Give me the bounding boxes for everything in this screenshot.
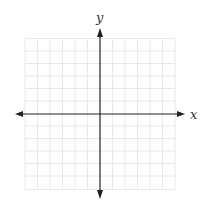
- arrow-up-icon: [97, 28, 103, 37]
- coordinate-plane: x y: [0, 0, 211, 203]
- arrow-down-icon: [97, 190, 103, 199]
- y-axis-label: y: [95, 10, 104, 25]
- x-axis-label: x: [190, 107, 198, 122]
- arrow-right-icon: [177, 111, 185, 117]
- arrow-left-icon: [15, 111, 23, 117]
